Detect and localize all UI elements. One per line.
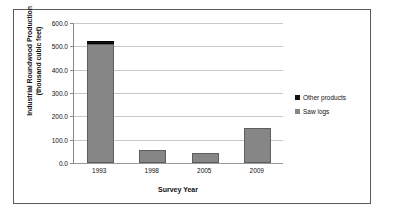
y-axis-tick-label: 300.0 <box>52 90 68 97</box>
legend-swatch-icon <box>295 95 300 100</box>
bar-segment[interactable] <box>192 153 219 163</box>
y-axis-tick-mark <box>70 70 74 71</box>
gridline <box>74 163 283 164</box>
y-axis-tick-mark <box>70 23 74 24</box>
y-axis-title: Industrial Roundwood Production (thousan… <box>21 0 47 136</box>
gridline <box>74 23 283 24</box>
bar-segment[interactable] <box>244 128 271 163</box>
y-axis-tick-mark <box>70 140 74 141</box>
bar-segment[interactable] <box>87 44 114 163</box>
x-axis-tick-label: 2005 <box>197 167 211 174</box>
x-axis-tick-label: 1993 <box>92 167 106 174</box>
legend-label: Other products <box>303 94 346 101</box>
y-axis-tick-label: 500.0 <box>52 43 68 50</box>
y-axis-tick-mark <box>70 93 74 94</box>
bar-group[interactable] <box>87 41 114 163</box>
y-axis-title-line-1: Industrial Roundwood Production <box>25 6 35 116</box>
bar-group[interactable] <box>244 128 271 163</box>
y-axis-tick-label: 0.0 <box>59 160 68 167</box>
chart-figure-frame: Industrial Roundwood Production (thousan… <box>13 9 371 204</box>
chart-legend: Other productsSaw logs <box>295 94 346 115</box>
plot-area: 600.0500.0400.0300.0200.0100.00.0 <box>73 23 283 163</box>
y-axis-tick-mark <box>70 116 74 117</box>
bar-segment[interactable] <box>139 150 166 163</box>
y-axis-tick-label: 600.0 <box>52 20 68 27</box>
legend-swatch-icon <box>295 109 300 114</box>
legend-label: Saw logs <box>303 108 329 115</box>
x-axis-title: Survey Year <box>73 186 283 193</box>
y-axis-tick-label: 100.0 <box>52 136 68 143</box>
y-axis-tick-label: 400.0 <box>52 66 68 73</box>
x-axis-tick-label: 2009 <box>250 167 264 174</box>
y-axis-title-line-2: (thousand cubic feet) <box>34 27 44 96</box>
y-axis-tick-label: 200.0 <box>52 113 68 120</box>
legend-item[interactable]: Other products <box>295 94 346 101</box>
legend-item[interactable]: Saw logs <box>295 108 346 115</box>
bar-group[interactable] <box>139 150 166 163</box>
y-axis-tick-mark <box>70 163 74 164</box>
y-axis-tick-mark <box>70 46 74 47</box>
bar-group[interactable] <box>192 153 219 163</box>
x-axis-tick-label: 1998 <box>145 167 159 174</box>
